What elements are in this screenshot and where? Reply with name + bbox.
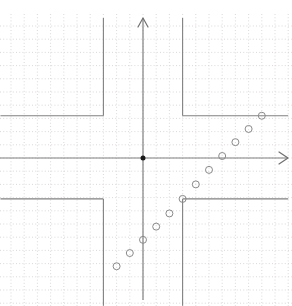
sample-point — [126, 250, 133, 257]
origin-marker — [141, 156, 146, 161]
sample-point — [206, 166, 213, 173]
step-function-curve — [0, 18, 288, 306]
grid-layer — [0, 14, 292, 306]
grid-lines-vertical — [11, 14, 288, 306]
plot-canvas — [0, 0, 292, 306]
sample-point-markers — [113, 112, 265, 269]
origin-dot — [141, 156, 146, 161]
coordinate-plot — [0, 0, 292, 306]
